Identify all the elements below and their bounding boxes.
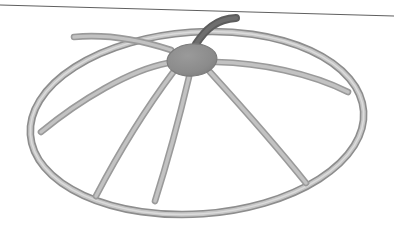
- spoke-east-edge: [216, 62, 348, 92]
- spoke-southeast: [210, 72, 306, 183]
- horizon-line: [0, 5, 394, 16]
- spoke-east: [216, 62, 348, 92]
- spoke-southeast-core: [210, 72, 306, 183]
- dome-frame-scene: [0, 0, 394, 237]
- dome-frame-svg: [0, 0, 394, 237]
